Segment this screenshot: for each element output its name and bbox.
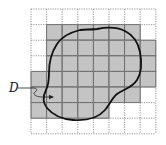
- shaded-cell: [78, 71, 94, 87]
- shaded-cell: [125, 56, 141, 72]
- shaded-cell: [62, 103, 78, 119]
- shaded-cell: [62, 71, 78, 87]
- shaded-cell: [47, 25, 63, 41]
- shaded-cell: [31, 71, 47, 87]
- shaded-cell: [93, 103, 109, 119]
- region-label-d: D: [9, 82, 19, 94]
- shaded-cell: [62, 40, 78, 56]
- shaded-cell: [109, 40, 125, 56]
- shaded-cell: [93, 40, 109, 56]
- shaded-cell: [78, 87, 94, 103]
- shaded-cell: [78, 40, 94, 56]
- shaded-cell: [93, 56, 109, 72]
- shaded-cell: [93, 87, 109, 103]
- shaded-cell: [62, 87, 78, 103]
- shaded-cell: [140, 71, 156, 87]
- shaded-cell: [109, 71, 125, 87]
- region-diagram: [0, 0, 166, 145]
- shaded-cell: [78, 103, 94, 119]
- shaded-cell: [109, 56, 125, 72]
- shaded-cell: [93, 71, 109, 87]
- shaded-cell: [62, 56, 78, 72]
- shaded-cell: [62, 25, 78, 41]
- shaded-cell: [78, 56, 94, 72]
- shaded-cell: [140, 56, 156, 72]
- shaded-cell: [125, 40, 141, 56]
- shaded-cell: [140, 40, 156, 56]
- shaded-cell: [78, 25, 94, 41]
- shaded-cell: [47, 87, 63, 103]
